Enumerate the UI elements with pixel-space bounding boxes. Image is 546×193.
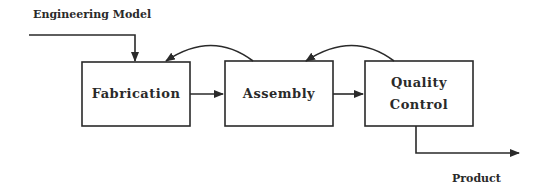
assembly-to-fabrication-feedback-arrow [166, 46, 253, 62]
control-text: Control [390, 94, 448, 116]
assembly-text: Assembly [243, 83, 315, 105]
fabrication-text: Fabrication [92, 83, 181, 105]
quality-text: Quality [391, 72, 447, 94]
quality-control-label: Quality Control [365, 61, 473, 126]
fabrication-label: Fabrication [82, 62, 190, 126]
process-flow-diagram: Engineering Model Fabrication Assembly Q… [0, 0, 546, 193]
input-arrow [29, 35, 135, 61]
qc-to-assembly-feedback-arrow [306, 46, 394, 62]
output-arrow [416, 126, 519, 153]
engineering-model-label: Engineering Model [33, 8, 151, 21]
product-label: Product [452, 172, 501, 185]
assembly-label: Assembly [225, 61, 333, 126]
